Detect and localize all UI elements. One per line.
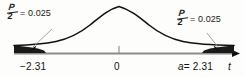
left-fraction: P 2 — [6, 3, 19, 23]
tick-label-zero: 0 — [114, 61, 120, 72]
critical-value-number: = 2.31 — [184, 61, 213, 72]
left-fraction-denominator: 2 — [7, 11, 13, 21]
tick-label-positive-critical: a= 2.31 — [178, 61, 213, 72]
right-tail-probability-label: P 2 = 0.025 — [177, 9, 221, 29]
left-tail-value: = 0.025 — [20, 8, 51, 18]
t-distribution-figure: P 2 = 0.025 P 2 = 0.025 −2.31 0 a= 2.31 … — [0, 0, 244, 77]
x-axis-label: t — [228, 61, 231, 72]
left-tail-shaded-region — [14, 46, 46, 53]
right-fraction: P 2 — [176, 9, 189, 29]
tick-label-negative-critical: −2.31 — [20, 61, 46, 72]
left-tail-probability-label: P 2 = 0.025 — [7, 3, 51, 23]
right-fraction-denominator: 2 — [177, 17, 183, 27]
right-tail-value: = 0.025 — [190, 14, 221, 24]
